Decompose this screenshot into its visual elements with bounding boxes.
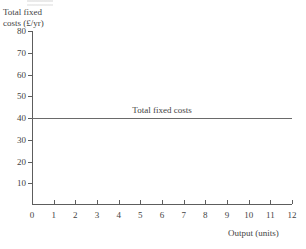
x-tick-label-7: 7 [181, 210, 186, 220]
y-tick-20 [28, 162, 32, 163]
x-tick-3 [97, 200, 98, 204]
x-tick-1 [54, 200, 55, 204]
y-tick-60 [28, 75, 32, 76]
y-tick-80 [28, 31, 32, 32]
x-axis-label: Output (units) [228, 228, 279, 238]
x-tick-2 [75, 200, 76, 204]
x-tick-label-8: 8 [203, 210, 208, 220]
series-total-fixed-costs [32, 118, 292, 119]
x-tick-label-2: 2 [73, 210, 78, 220]
x-tick-4 [119, 200, 120, 204]
x-tick-label-6: 6 [160, 210, 165, 220]
scan-artifact [27, 0, 53, 7]
plot-area: 1020304050607080 0123456789101112 Total … [32, 31, 292, 205]
y-tick-label-80: 80 [17, 26, 26, 36]
series-annotation-total-fixed-costs: Total fixed costs [132, 105, 191, 115]
x-tick-label-9: 9 [225, 210, 230, 220]
x-tick-8 [205, 200, 206, 204]
y-tick-label-60: 60 [17, 70, 26, 80]
y-tick-50 [28, 96, 32, 97]
y-axis-label: Total fixed costs (£/yr) [3, 7, 44, 28]
x-tick-5 [140, 200, 141, 204]
chart-figure: Total fixed costs (£/yr) 102030405060708… [0, 0, 306, 249]
y-tick-label-50: 50 [17, 91, 26, 101]
x-axis [32, 204, 292, 205]
x-tick-label-5: 5 [138, 210, 143, 220]
y-tick-label-20: 20 [17, 157, 26, 167]
x-tick-label-10: 10 [244, 210, 253, 220]
x-tick-9 [227, 200, 228, 204]
x-tick-12 [292, 200, 293, 204]
x-tick-label-0: 0 [30, 210, 35, 220]
y-tick-label-40: 40 [17, 113, 26, 123]
x-tick-11 [270, 200, 271, 204]
y-axis-label-line-1: Total fixed [3, 7, 44, 18]
x-tick-6 [162, 200, 163, 204]
x-tick-label-4: 4 [116, 210, 121, 220]
x-tick-label-1: 1 [51, 210, 56, 220]
x-tick-10 [249, 200, 250, 204]
y-tick-label-70: 70 [17, 48, 26, 58]
y-tick-30 [28, 140, 32, 141]
x-tick-7 [184, 200, 185, 204]
y-tick-label-10: 10 [17, 178, 26, 188]
x-tick-label-3: 3 [95, 210, 100, 220]
x-tick-label-11: 11 [266, 210, 275, 220]
y-tick-70 [28, 53, 32, 54]
x-tick-label-12: 12 [288, 210, 297, 220]
y-tick-10 [28, 183, 32, 184]
y-tick-label-30: 30 [17, 135, 26, 145]
